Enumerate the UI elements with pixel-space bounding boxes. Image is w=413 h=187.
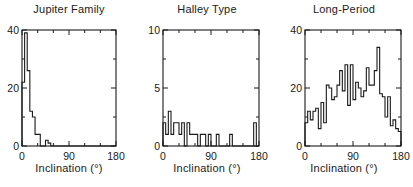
histogram-plot: 09018002040	[0, 0, 138, 187]
y-tick-label: 20	[290, 82, 302, 94]
panel-halley-type: Halley Type 0901800510 Inclination (°)	[138, 0, 276, 187]
y-tick-label: 40	[7, 24, 19, 36]
y-tick-label: 0	[154, 140, 160, 152]
histogram-plot: 0901800510	[138, 0, 276, 187]
y-tick-label: 20	[7, 82, 19, 94]
panel-long-period: Long-Period 09018002040 Inclination (°)	[275, 0, 413, 187]
x-tick-label: 180	[107, 150, 125, 162]
y-tick-label: 0	[13, 140, 19, 152]
x-axis-label: Inclination (°)	[275, 162, 413, 174]
histogram-steps	[22, 33, 116, 146]
y-tick-label: 10	[148, 24, 160, 36]
plot-frame	[163, 30, 259, 146]
y-tick-label: 5	[154, 82, 160, 94]
x-axis-label: Inclination (°)	[138, 162, 276, 174]
y-tick-label: 0	[296, 140, 302, 152]
histogram-steps	[163, 111, 259, 146]
x-tick-label: 90	[347, 150, 359, 162]
x-tick-label: 90	[205, 150, 217, 162]
y-tick-label: 40	[290, 24, 302, 36]
x-tick-label: 0	[160, 150, 166, 162]
x-tick-label: 0	[19, 150, 25, 162]
x-axis-label: Inclination (°)	[0, 162, 138, 174]
x-tick-label: 90	[63, 150, 75, 162]
x-tick-label: 180	[250, 150, 268, 162]
plot-frame	[22, 30, 116, 146]
x-tick-label: 0	[302, 150, 308, 162]
histogram-plot: 09018002040	[275, 0, 413, 187]
panel-jupiter-family: Jupiter Family 09018002040 Inclination (…	[0, 0, 138, 187]
x-tick-label: 180	[392, 150, 410, 162]
histogram-steps	[305, 47, 401, 146]
